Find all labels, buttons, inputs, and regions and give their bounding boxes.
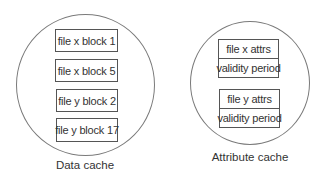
data-block-label: file x block 5 bbox=[58, 65, 116, 77]
data-block-label: file y block 2 bbox=[58, 95, 116, 107]
data-block-file-x-1: file x block 1 bbox=[55, 29, 118, 52]
data-block-file-y-2: file y block 2 bbox=[56, 89, 118, 112]
attr-entry-validity: validity period bbox=[220, 109, 279, 128]
attr-entry-file-y: file y attrs validity period bbox=[219, 89, 280, 128]
attribute-cache-label: Attribute cache bbox=[200, 151, 300, 163]
attr-entry-validity: validity period bbox=[219, 59, 278, 78]
data-block-file-x-5: file x block 5 bbox=[55, 59, 118, 82]
attr-entry-attrs: file x attrs bbox=[219, 40, 278, 59]
data-block-label: file x block 1 bbox=[58, 35, 116, 47]
data-block-label: file y block 17 bbox=[55, 124, 119, 136]
attr-entry-file-x: file x attrs validity period bbox=[218, 39, 279, 78]
data-cache-label: Data cache bbox=[35, 159, 135, 171]
attr-entry-attrs: file y attrs bbox=[220, 90, 279, 109]
data-block-file-y-17: file y block 17 bbox=[56, 118, 118, 142]
